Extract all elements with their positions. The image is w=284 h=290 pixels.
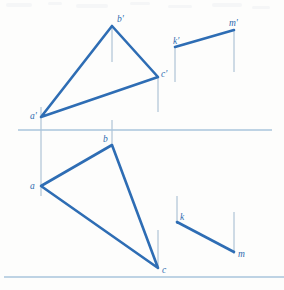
label-a: a <box>30 181 35 191</box>
projector-lines-group <box>41 26 234 268</box>
front-view-group <box>41 26 234 117</box>
line-k-m-top <box>177 222 234 252</box>
top-view-group <box>41 145 234 268</box>
drawing-page: a' b' c' k' m' a b c k m <box>0 0 284 290</box>
triangle-a-b-c-front <box>41 26 158 117</box>
label-c: c <box>162 265 167 275</box>
label-c-prime: c' <box>161 69 168 79</box>
label-b-prime: b' <box>117 14 125 24</box>
projection-figure: a' b' c' k' m' a b c k m <box>0 0 284 290</box>
label-m: m <box>238 249 245 259</box>
line-k-m-front <box>175 30 234 47</box>
label-k: k <box>180 212 185 222</box>
label-b: b <box>103 134 108 144</box>
label-k-prime: k' <box>173 36 180 46</box>
label-a-prime: a' <box>30 111 38 121</box>
triangle-a-b-c-top <box>41 145 158 268</box>
label-m-prime: m' <box>229 18 239 28</box>
